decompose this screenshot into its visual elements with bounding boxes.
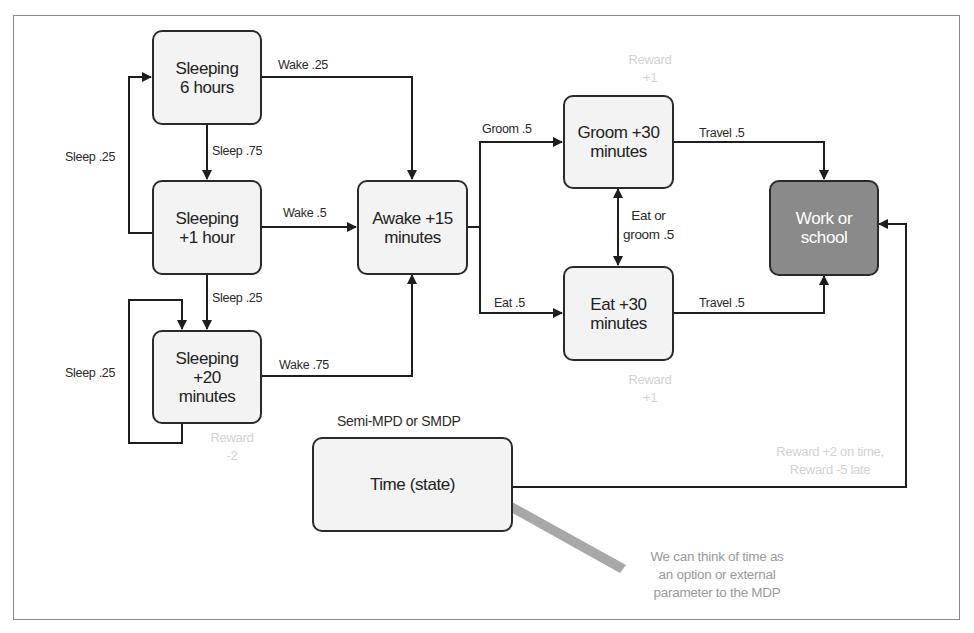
reward-eat: Reward +1 <box>620 371 680 407</box>
label-travel-groom: Travel .5 <box>699 126 744 140</box>
label-eat-or-groom: Eat or groom .5 <box>623 206 674 244</box>
edge-eat-work <box>673 276 824 313</box>
edge-groom-work <box>673 142 824 179</box>
label-sleep-75: Sleep .75 <box>212 144 262 158</box>
smdp-title: Semi-MPD or SMDP <box>337 413 461 429</box>
node-sleeping-1-hour: Sleeping +1 hour <box>152 180 262 275</box>
reward-groom: Reward +1 <box>620 51 680 87</box>
label-groom-5: Groom .5 <box>482 122 532 136</box>
edge-awake-groom <box>467 142 562 227</box>
label-wake-75: Wake .75 <box>279 358 329 372</box>
label-sleep-25-loop: Sleep .25 <box>65 366 115 380</box>
time-note: We can think of time as an option or ext… <box>617 548 817 602</box>
label-wake-5: Wake .5 <box>283 206 326 220</box>
reward-work: Reward +2 on time, Reward -5 late <box>757 443 903 479</box>
label-travel-eat: Travel .5 <box>699 296 744 310</box>
edge-sleep6-awake <box>261 77 412 179</box>
reward-sleep20: Reward -2 <box>202 429 262 465</box>
node-work-or-school: Work or school <box>769 180 879 276</box>
label-sleep-25-back: Sleep .25 <box>65 150 115 164</box>
mdp-diagram: Sleeping 6 hours Sleeping +1 hour Sleepi… <box>0 0 974 633</box>
edges-layer <box>0 0 974 633</box>
label-wake-25: Wake .25 <box>278 58 328 72</box>
node-time-state: Time (state) <box>312 437 513 532</box>
node-sleeping-6-hours: Sleeping 6 hours <box>152 30 262 125</box>
edge-sleep1-sleep6 <box>129 77 152 233</box>
node-groom-30-minutes: Groom +30 minutes <box>563 95 674 189</box>
node-awake-15-minutes: Awake +15 minutes <box>357 180 468 275</box>
label-eat-5: Eat .5 <box>494 296 525 310</box>
label-sleep-25-down: Sleep .25 <box>212 291 262 305</box>
node-eat-30-minutes: Eat +30 minutes <box>563 266 674 361</box>
node-sleeping-20-minutes: Sleeping +20 minutes <box>152 330 262 424</box>
